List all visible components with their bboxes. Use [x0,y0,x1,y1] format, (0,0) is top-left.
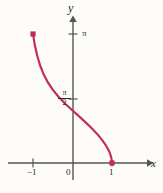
y-axis-label: y [68,2,73,14]
fraction-denominator: 2 [58,99,71,107]
arccos-graph-figure: y x π −1 0 1 π 2 [0,0,163,193]
y-axis-arrow-icon [69,16,77,23]
x-tick-label-negative-one: −1 [27,168,37,177]
x-axis-label: x [151,158,156,169]
fraction-numerator: π [58,89,71,97]
y-tick-label-pi-over-two: π 2 [58,89,71,108]
curve-endpoint-marker-right [109,160,114,165]
curve-endpoint-marker-left [30,31,35,36]
x-tick-label-one: 1 [109,168,114,177]
y-tick-label-pi: π [82,29,87,38]
origin-label: 0 [66,168,71,177]
